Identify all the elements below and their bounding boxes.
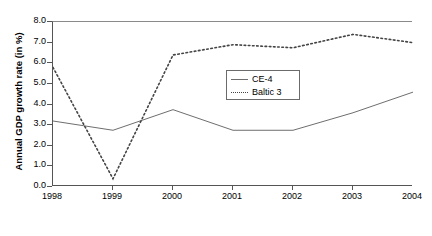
plot-area [52,21,412,186]
x-tick-label: 1998 [32,191,72,201]
x-tick-mark [112,186,113,190]
y-tick-label: 6.0 [20,57,46,66]
y-tick-mark [47,186,52,187]
gdp-growth-line-chart: Annual GDP growth rate (in %) 8.07.06.05… [0,0,432,236]
x-tick-mark [172,186,173,190]
x-tick-label: 2001 [212,191,252,201]
y-tick-label: 2.0 [20,140,46,149]
y-tick-label: 0.0 [20,181,46,190]
y-tick-label: 3.0 [20,119,46,128]
x-tick-mark [232,186,233,190]
x-tick-label: 2003 [332,191,372,201]
y-tick-label: 1.0 [20,160,46,169]
series-lines [53,22,413,187]
chart-legend: CE-4 Baltic 3 [226,70,300,100]
y-tick-label: 5.0 [20,78,46,87]
x-tick-mark [352,186,353,190]
y-tick-label: 4.0 [20,99,46,108]
y-tick-label: 7.0 [20,37,46,46]
legend-swatch-solid-line-icon [231,75,248,83]
x-tick-label: 1999 [92,191,132,201]
series-line-baltic-3 [53,34,413,178]
legend-item-ce-4: CE-4 [231,73,299,85]
y-tick-label: 8.0 [20,16,46,25]
legend-swatch-dotted-line-icon [231,88,248,96]
legend-label-baltic-3: Baltic 3 [252,87,282,97]
x-tick-label: 2004 [392,191,432,201]
x-tick-label: 2000 [152,191,192,201]
x-axis-tick-labels: 1998199920002001200220032004 [52,191,412,205]
legend-label-ce-4: CE-4 [252,74,273,84]
x-tick-mark [292,186,293,190]
legend-item-baltic-3: Baltic 3 [231,86,299,98]
x-tick-label: 2002 [272,191,312,201]
